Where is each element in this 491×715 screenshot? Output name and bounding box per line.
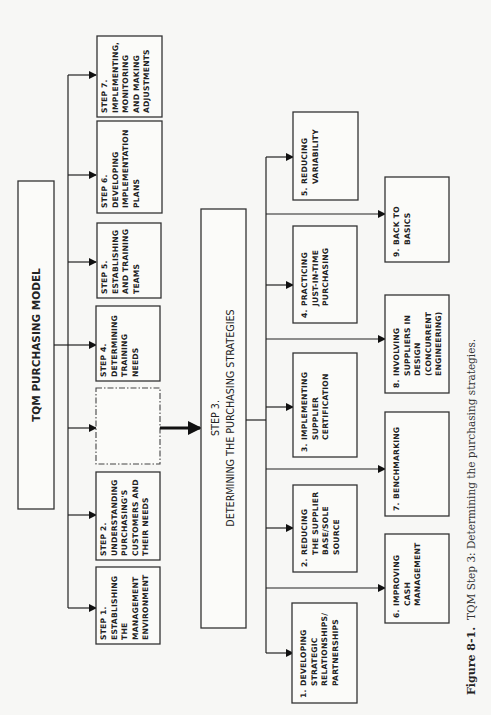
step4-line: NEEDS — [131, 347, 140, 377]
strategy1-number: 1. — [299, 689, 308, 698]
strategy4-line: PURCHASING — [321, 248, 330, 306]
strategy4-box: 4. PRACTICING JUST-IN-TIME PURCHASING — [293, 226, 357, 323]
svg-text:9.: 9. — [392, 248, 401, 257]
strategy3-number: 3. — [300, 443, 309, 452]
strategy2-line: REDUCING — [300, 509, 309, 555]
strategy9-line: BACK TO — [392, 206, 401, 245]
strategy8-line: ENGINEERING) — [434, 312, 443, 376]
strategy8-box: 8. INVOLVING SUPPLIERS IN DESIGN (CONCUR… — [385, 295, 449, 393]
step7-line: MONITORING — [121, 55, 130, 113]
strategy5-number: 5. — [300, 187, 309, 196]
svg-text:1.: 1. — [299, 689, 308, 698]
strategy8-line: SUPPLIERS IN — [403, 315, 412, 376]
step5-box: STEP 5. ESTABLISHING AND TRAINING TEAMS — [97, 223, 161, 298]
figure-caption: Figure 8-1. TQM Step 3: Determining the … — [465, 339, 478, 695]
tqm-model-title: TQM PURCHASING MODEL — [30, 268, 42, 422]
step1-line: THE — [120, 623, 129, 640]
strategy2-box: 2. REDUCING THE SUPPLIER BASE/SOLE SOURC… — [293, 485, 357, 572]
step5-label: STEP 5. — [100, 260, 109, 294]
step7-label: STEP 7. — [100, 79, 109, 113]
strategy5-line: VARIABILITY — [311, 129, 320, 184]
strategy9-box: 9. BACK TO BASICS — [385, 177, 449, 262]
strategy6-line: CASH — [403, 582, 412, 606]
step6-line: PLANS — [132, 179, 141, 208]
strategy1-line: DEVELOPING — [299, 629, 308, 686]
figure-caption-text: TQM Step 3: Determining the purchasing s… — [465, 339, 477, 620]
step6-line: DEVELOPING — [111, 151, 120, 208]
figure-label: Figure 8-1. — [465, 627, 478, 695]
strategy3-line: CERTIFICATION — [321, 373, 330, 440]
svg-text:REDUCING VARIABILITY: REDUCING VARIABILITY — [300, 129, 320, 184]
strategy4-line: PRACTICING — [300, 252, 309, 306]
step5-line: AND TRAINING — [121, 229, 130, 294]
svg-text:5.: 5. — [300, 187, 309, 196]
strategy3-line: IMPLEMENTING — [300, 372, 309, 440]
strategy1-line: RELATIONSHIPS/ — [320, 613, 329, 686]
step2-line: THEIR NEEDS — [141, 497, 150, 556]
strategy2-line: BASE/SOLE — [321, 506, 330, 555]
step6-line: IMPLEMENTATION — [121, 129, 130, 208]
strategy2-number: 2. — [300, 558, 309, 567]
step6-box: STEP 6. DEVELOPING IMPLEMENTATION PLANS — [97, 121, 162, 213]
strategy3-box: 3. IMPLEMENTING SUPPLIER CERTIFICATION — [293, 353, 357, 457]
step3-title: DETERMINING THE PURCHASING STRATEGIES — [225, 309, 236, 526]
step5-line: ESTABLISHING — [111, 230, 120, 294]
strategy5-box: 5. REDUCING VARIABILITY — [293, 112, 358, 200]
strategy6-line: MANAGEMENT — [413, 542, 422, 606]
step2-line: UNDERSTANDING — [110, 480, 119, 556]
step6-label: STEP 6. — [100, 174, 109, 208]
svg-text:8.: 8. — [392, 379, 401, 388]
strategy8-line: (CONCURRENT — [424, 311, 433, 376]
step2-box: STEP 2. UNDERSTANDING PURCHASING'S CUSTO… — [96, 472, 160, 560]
step2-line: CUSTOMERS AND — [131, 479, 140, 556]
step3-box: STEP 3. DETERMINING THE PURCHASING STRAT… — [201, 209, 246, 628]
step4-label: STEP 4. — [99, 343, 108, 377]
strategy8-number: 8. — [392, 379, 401, 388]
strategy1-line: PARTNERSHIPS — [331, 619, 340, 686]
step1-line: ENVIRONMENT — [141, 574, 150, 640]
step1-box: STEP 1. ESTABLISHING THE MANAGEMENT ENVI… — [96, 567, 160, 644]
strategy2-line: THE SUPPLIER — [311, 492, 320, 555]
strategy4-number: 4. — [300, 309, 309, 318]
strategy9-line: BASICS — [403, 213, 412, 245]
step1-label: STEP 1. — [99, 606, 108, 640]
tqm-diagram: TQM PURCHASING MODEL STEP 7. IMPLEMENTIN… — [0, 0, 491, 715]
step1-line: MANAGEMENT — [131, 576, 140, 640]
step7-box: STEP 7. IMPLEMENTING, MONITORING AND MAK… — [97, 36, 162, 117]
svg-text:2.: 2. — [300, 558, 309, 567]
strategy8-line: INVOLVING — [392, 328, 401, 376]
step4-line: TRAINING — [120, 334, 129, 377]
tqm-model-box: TQM PURCHASING MODEL — [18, 181, 54, 509]
step1-line: ESTABLISHING — [110, 576, 119, 640]
svg-text:3.: 3. — [300, 443, 309, 452]
step4-box: STEP 4. DETERMINING TRAINING NEEDS — [96, 306, 160, 381]
step2-line: PURCHASING'S — [120, 490, 129, 556]
svg-text:6.: 6. — [392, 609, 401, 618]
strategy1-box: 1. DEVELOPING STRATEGIC RELATIONSHIPS/ P… — [292, 603, 357, 703]
strategy7-line: BENCHMARKING — [392, 427, 401, 499]
strategy5-line: REDUCING — [300, 138, 309, 184]
step4-line: DETERMINING — [110, 315, 119, 377]
strategy1-line: STRATEGIC — [310, 637, 319, 686]
strategy7-number: 7. — [392, 502, 401, 511]
svg-text:7.: 7. — [392, 502, 401, 511]
step7-line: IMPLEMENTING, — [111, 42, 120, 113]
strategy3-line: SUPPLIER — [311, 397, 320, 440]
svg-text:PRACTICING JUST-IN-TIME: PRACTICING JUST-IN-TIME PURCHASING — [300, 247, 330, 307]
step5-line: TEAMS — [132, 264, 141, 294]
strategy4-line: JUST-IN-TIME — [311, 250, 320, 307]
step7-line: AND MAKING — [132, 55, 141, 113]
svg-text:4.: 4. — [300, 309, 309, 318]
step7-line: ADJUSTMENTS — [142, 49, 151, 113]
strategy9-number: 9. — [392, 248, 401, 257]
svg-text:BENCHMARKING: BENCHMARKING — [392, 427, 401, 499]
strategy7-box: 7. BENCHMARKING — [385, 412, 449, 516]
step2-label: STEP 2. — [99, 522, 108, 556]
step3-label: STEP 3. — [210, 400, 221, 436]
strategy6-line: IMPROVING — [392, 555, 401, 606]
strategy2-line: SOURCE — [332, 519, 341, 555]
step3-placeholder-box — [96, 388, 160, 464]
strategy6-number: 6. — [392, 609, 401, 618]
strategy6-box: 6. IMPROVING CASH MANAGEMENT — [385, 534, 449, 623]
strategy8-line: DESIGN — [413, 342, 422, 376]
